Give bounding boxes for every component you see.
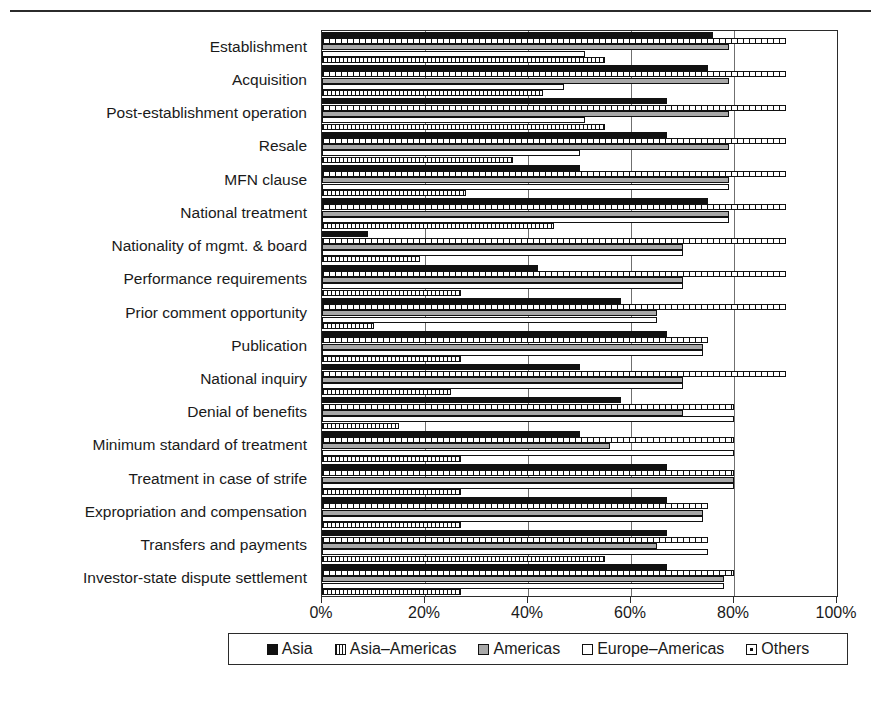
category-label: Publication <box>231 338 307 354</box>
category-label: Nationality of mgmt. & board <box>111 238 307 254</box>
legend-swatch-icon <box>478 644 489 655</box>
category-label: Minimum standard of treatment <box>92 437 307 453</box>
legend-entry-asia-americas[interactable]: Asia–Americas <box>335 640 457 658</box>
bar-asia-americas <box>322 304 786 310</box>
bar-europe-americas <box>322 184 729 190</box>
bar-others <box>322 423 399 429</box>
legend-entry-europe-americas[interactable]: Europe–Americas <box>582 640 724 658</box>
bar-americas <box>322 211 729 217</box>
category-label: MFN clause <box>224 172 307 188</box>
bar-americas <box>322 177 729 183</box>
legend-swatch-icon <box>335 644 346 655</box>
bar-americas <box>322 277 683 283</box>
legend-entry-asia[interactable]: Asia <box>267 640 313 658</box>
bar-group <box>322 298 837 330</box>
bar-group <box>322 530 837 562</box>
bar-americas <box>322 144 729 150</box>
bar-americas <box>322 576 724 582</box>
x-tick-label: 0% <box>309 603 332 623</box>
bar-others <box>322 90 543 96</box>
category-label: Investor-state dispute settlement <box>83 570 307 586</box>
bar-asia <box>322 32 713 38</box>
bar-europe-americas <box>322 150 580 156</box>
legend-label: Americas <box>493 640 560 658</box>
legend-label: Asia–Americas <box>350 640 457 658</box>
bar-group <box>322 497 837 529</box>
bar-europe-americas <box>322 84 564 90</box>
bar-asia-americas <box>322 138 786 144</box>
bar-chart-figure: EstablishmentAcquisitionPost-establishme… <box>0 0 881 707</box>
bar-asia-americas <box>322 371 786 377</box>
bar-group <box>322 198 837 230</box>
bar-group <box>322 464 837 496</box>
category-label: Resale <box>259 138 307 154</box>
bar-group <box>322 564 837 596</box>
bar-americas <box>322 410 683 416</box>
bar-americas <box>322 510 703 516</box>
bar-americas <box>322 44 729 50</box>
bar-asia-americas <box>322 503 708 509</box>
bar-asia <box>322 364 580 370</box>
bar-asia-americas <box>322 71 786 77</box>
bar-group <box>322 331 837 363</box>
chart-legend: AsiaAsia–AmericasAmericasEurope–Americas… <box>228 633 848 665</box>
bar-asia-americas <box>322 437 734 443</box>
legend-swatch-icon <box>746 644 757 655</box>
bar-others <box>322 323 374 329</box>
bar-europe-americas <box>322 283 683 289</box>
category-label: Establishment <box>210 39 307 55</box>
category-axis-labels: EstablishmentAcquisitionPost-establishme… <box>0 30 315 597</box>
bar-europe-americas <box>322 350 703 356</box>
category-label: Expropriation and compensation <box>85 504 307 520</box>
bar-others <box>322 124 605 130</box>
bar-americas <box>322 543 657 549</box>
bar-asia <box>322 464 667 470</box>
bar-asia <box>322 331 667 337</box>
bar-europe-americas <box>322 217 729 223</box>
bar-asia-americas <box>322 570 734 576</box>
bar-asia <box>322 530 667 536</box>
bar-asia <box>322 431 580 437</box>
bar-others <box>322 389 451 395</box>
bar-europe-americas <box>322 117 585 123</box>
legend-entry-americas[interactable]: Americas <box>478 640 560 658</box>
bar-asia <box>322 231 368 237</box>
bar-americas <box>322 310 657 316</box>
bar-asia-americas <box>322 238 786 244</box>
bar-asia <box>322 98 667 104</box>
bar-asia <box>322 65 708 71</box>
legend-label: Others <box>761 640 809 658</box>
bar-americas <box>322 78 729 84</box>
x-tick-label: 80% <box>717 603 749 623</box>
bar-group <box>322 98 837 130</box>
bar-asia-americas <box>322 404 734 410</box>
bar-group <box>322 132 837 164</box>
bar-europe-americas <box>322 549 708 555</box>
legend-label: Europe–Americas <box>597 640 724 658</box>
category-label: National inquiry <box>200 371 307 387</box>
category-label: Performance requirements <box>124 271 308 287</box>
bar-asia-americas <box>322 38 786 44</box>
bar-others <box>322 589 461 595</box>
category-label: Denial of benefits <box>187 404 307 420</box>
bar-group <box>322 32 837 64</box>
bar-group <box>322 265 837 297</box>
bar-others <box>322 190 466 196</box>
x-tick-label: 20% <box>408 603 440 623</box>
category-label: Post-establishment operation <box>106 105 307 121</box>
legend-swatch-icon <box>582 644 593 655</box>
legend-entry-others[interactable]: Others <box>746 640 809 658</box>
bar-group <box>322 231 837 263</box>
bar-americas <box>322 377 683 383</box>
category-label: National treatment <box>180 205 307 221</box>
x-tick-label: 40% <box>511 603 543 623</box>
x-tick-label: 60% <box>614 603 646 623</box>
plot-area <box>321 30 838 597</box>
bar-asia <box>322 265 538 271</box>
bar-asia-americas <box>322 537 708 543</box>
legend-label: Asia <box>282 640 313 658</box>
bar-asia-americas <box>322 105 786 111</box>
bar-asia <box>322 132 667 138</box>
bar-americas <box>322 477 734 483</box>
bar-asia <box>322 298 621 304</box>
